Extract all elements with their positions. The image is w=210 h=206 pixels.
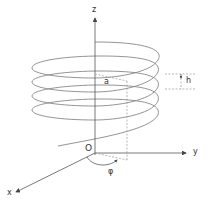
origin-label: O [85, 144, 92, 153]
helix-diagram: z y x O a h φ [0, 0, 210, 206]
x-axis [16, 153, 95, 192]
helix-drawing [0, 0, 210, 206]
phi-arc [87, 157, 117, 165]
z-axis-label: z [92, 6, 96, 14]
x-axis-label: x [7, 189, 12, 197]
construction-lines [95, 74, 195, 160]
helix-curve [32, 42, 159, 146]
pitch-label: h [186, 77, 191, 85]
angle-label: φ [108, 168, 113, 176]
y-axis-label: y [193, 148, 198, 156]
radius-label: a [104, 78, 109, 86]
